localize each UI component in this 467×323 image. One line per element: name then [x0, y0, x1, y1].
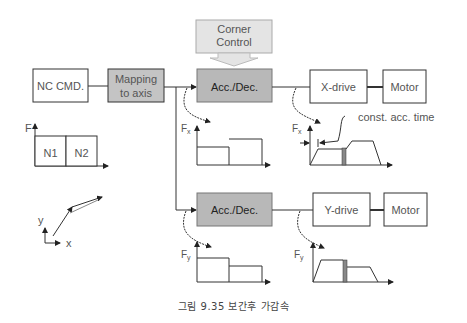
motor-y-label: Motor: [391, 204, 419, 216]
svg-text:Fx: Fx: [181, 123, 191, 135]
corner-label-2: Control: [216, 36, 251, 48]
trajectory-diagram: y x: [38, 197, 102, 249]
feed-axis-label: F: [25, 122, 32, 134]
down-arrow-icon: [210, 53, 258, 66]
corner-control-block: Corner Control: [196, 20, 272, 66]
feed-chart: F N1 N2: [25, 122, 108, 166]
nc-cmd-label: NC CMD.: [37, 80, 84, 92]
segment-n2-label: N2: [74, 147, 88, 159]
segment-n1-label: N1: [43, 147, 57, 159]
nc-cmd-block: NC CMD.: [33, 69, 88, 102]
y-axis-label: y: [38, 214, 44, 226]
acc-dec-y-label: Acc./Dec.: [211, 204, 258, 216]
acc-dec-x-block: Acc./Dec.: [197, 69, 272, 102]
corner-label-1: Corner: [217, 23, 251, 35]
mapping-label-1: Mapping: [115, 73, 157, 85]
svg-text:Fy: Fy: [294, 249, 304, 262]
motor-x-block: Motor: [383, 70, 426, 103]
const-acc-time-label: const. acc. time: [358, 111, 434, 123]
y-drive-block: Y-drive: [313, 193, 370, 226]
mapping-label-2: to axis: [120, 87, 152, 99]
interpolation-accdec-diagram: Corner Control NC CMD. Mapping to axis A…: [0, 0, 467, 323]
y-drive-label: Y-drive: [325, 204, 359, 216]
acc-dec-x-label: Acc./Dec.: [211, 81, 258, 93]
acc-dec-y-block: Acc./Dec.: [197, 193, 272, 226]
motor-y-block: Motor: [384, 193, 427, 226]
x-axis-label: x: [66, 237, 72, 249]
x-drive-label: X-drive: [321, 81, 356, 93]
svg-text:Fx: Fx: [292, 123, 302, 135]
x-drive-block: X-drive: [310, 70, 367, 103]
mapping-block: Mapping to axis: [108, 69, 164, 102]
motor-x-label: Motor: [390, 81, 418, 93]
figure-caption: 그림 9.35 보간후 가감속: [0, 298, 467, 313]
svg-text:Fy: Fy: [181, 249, 191, 262]
